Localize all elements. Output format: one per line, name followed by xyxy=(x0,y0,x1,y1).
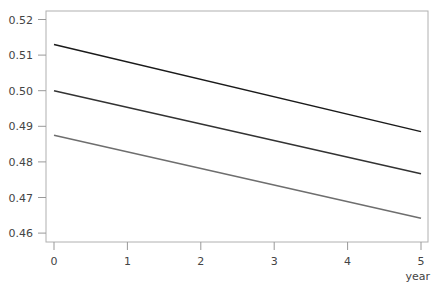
x-tick-label: 0 xyxy=(51,255,58,268)
x-tick-label: 4 xyxy=(344,255,351,268)
series-line-lower xyxy=(54,135,421,218)
y-tick-label: 0.49 xyxy=(9,120,34,133)
y-tick-label: 0.46 xyxy=(9,227,34,240)
chart-svg: 0.520.510.500.490.480.470.46 012345 year xyxy=(0,0,441,289)
x-tick-label: 2 xyxy=(197,255,204,268)
line-chart: 0.520.510.500.490.480.470.46 012345 year xyxy=(0,0,441,289)
y-tick-label: 0.47 xyxy=(9,192,34,205)
y-tick-label: 0.52 xyxy=(9,14,34,27)
y-tick-label: 0.51 xyxy=(9,49,34,62)
y-tick-label: 0.48 xyxy=(9,156,34,169)
series-lines xyxy=(54,44,421,218)
series-line-middle xyxy=(54,91,421,174)
x-tick-label: 5 xyxy=(418,255,425,268)
y-axis: 0.520.510.500.490.480.470.46 xyxy=(9,14,47,241)
x-axis-label: year xyxy=(405,270,430,283)
x-axis: 012345 xyxy=(51,242,425,268)
y-tick-label: 0.50 xyxy=(9,85,34,98)
series-line-upper xyxy=(54,44,421,131)
x-tick-label: 3 xyxy=(271,255,278,268)
x-tick-label: 1 xyxy=(124,255,131,268)
